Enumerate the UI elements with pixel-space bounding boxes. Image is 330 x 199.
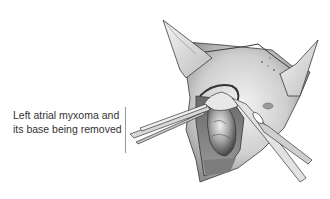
surgical-illustration <box>0 0 330 199</box>
